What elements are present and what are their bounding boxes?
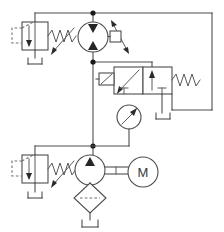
valve-supply-line	[93, 62, 152, 67]
hydraulic-motor	[78, 20, 129, 54]
directional-control-valve	[96, 67, 200, 119]
reservoir-pump	[82, 220, 98, 227]
electric-motor-label: M	[138, 165, 149, 180]
top-pressure-junction	[90, 10, 95, 15]
suction-filter	[74, 183, 106, 220]
electric-motor: M	[128, 157, 158, 187]
pressure-gauge	[93, 105, 141, 146]
drive-shaft	[105, 167, 128, 174]
hydraulic-schematic-diagram: M	[0, 0, 224, 232]
mid-pressure-junction	[90, 59, 95, 64]
schematic-canvas: M	[0, 0, 224, 232]
relief-valve-top	[12, 21, 76, 64]
hydraulic-pump	[75, 155, 105, 185]
